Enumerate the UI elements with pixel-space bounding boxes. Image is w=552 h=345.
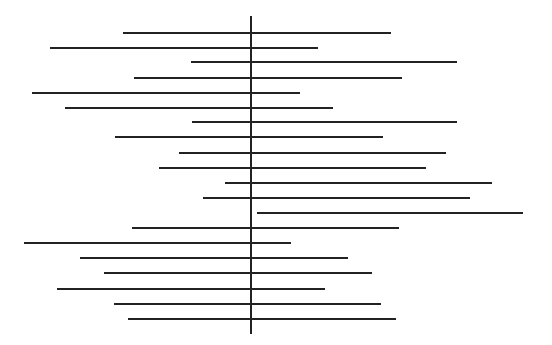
interval-plot <box>0 0 552 345</box>
interval-lines <box>24 33 523 319</box>
